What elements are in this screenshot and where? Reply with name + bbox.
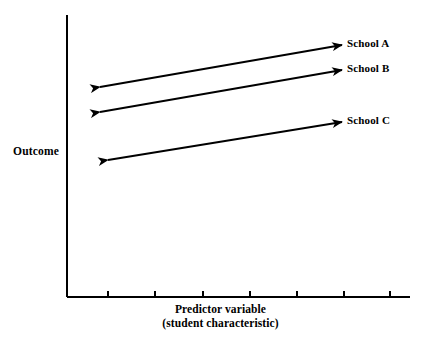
y-axis-title: Outcome [13,145,59,159]
x-axis-ticks [108,291,390,297]
series-arrow-school-c [108,122,342,160]
x-axis-title: Predictor variable (student characterist… [0,303,441,330]
series-arrows [100,45,342,160]
x-axis-title-line-2: (student characteristic) [0,317,441,331]
plot-canvas [0,0,441,344]
axis-lines [67,15,410,297]
x-axis-title-line-1: Predictor variable [0,303,441,317]
series-label-school-c: School C [347,114,390,127]
series-arrow-school-a [100,45,342,87]
chart-figure: School A School B School C Outcome Predi… [0,0,441,344]
series-arrow-school-b [100,70,342,112]
series-label-school-a: School A [347,37,389,50]
series-label-school-b: School B [347,62,389,75]
